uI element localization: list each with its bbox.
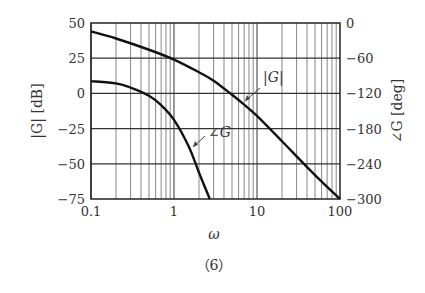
- magnitude-curve: [91, 31, 340, 199]
- x-tick-label: 1: [170, 204, 178, 219]
- x-tick-label: 10: [249, 204, 266, 219]
- grid-lines: [91, 23, 340, 199]
- y-tick-label-left: 25: [68, 51, 85, 66]
- phase-annotation: ∠G: [208, 124, 231, 140]
- bode-plot: 0.111010050250−25−50−750−60−120−180−240−…: [0, 0, 425, 293]
- y-tick-label-left: −75: [58, 192, 85, 207]
- y-tick-label-right: 0: [346, 16, 354, 31]
- plot-frame: [91, 23, 340, 199]
- y-tick-label-left: 0: [77, 86, 85, 101]
- magnitude-annotation: |G|: [263, 69, 284, 86]
- y-tick-label-right: −60: [346, 51, 373, 66]
- y-axis-label-left: |G| [dB]: [29, 83, 46, 138]
- y-tick-label-right: −120: [346, 86, 382, 101]
- figure-caption: （6）: [196, 257, 233, 273]
- y-tick-label-left: −25: [58, 122, 85, 137]
- arrowhead-icon: [193, 141, 198, 147]
- x-axis-label: ω: [208, 226, 220, 242]
- y-tick-label-right: −240: [346, 157, 382, 172]
- y-tick-label-left: 50: [68, 16, 85, 31]
- tick-labels: 0.111010050250−25−50−750−60−120−180−240−…: [58, 16, 382, 219]
- y-axis-label-right: ∠G [deg]: [389, 79, 405, 144]
- y-tick-label-left: −50: [58, 157, 85, 172]
- y-tick-label-right: −180: [346, 122, 382, 137]
- phase-curve: [91, 81, 210, 199]
- y-tick-label-right: −300: [346, 192, 382, 207]
- curves: [91, 31, 340, 199]
